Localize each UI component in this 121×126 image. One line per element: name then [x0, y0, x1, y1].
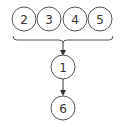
- node-label: 1: [59, 61, 67, 75]
- node-1: 1: [51, 55, 75, 79]
- grouping-brace: [13, 36, 113, 43]
- node-6: 6: [51, 96, 75, 120]
- node-3: 3: [37, 7, 61, 31]
- node-label: 5: [96, 13, 104, 27]
- node-label: 2: [20, 13, 28, 27]
- node-2: 2: [12, 7, 36, 31]
- node-label: 3: [45, 13, 53, 27]
- node-label: 4: [71, 13, 79, 27]
- node-5: 5: [88, 7, 112, 31]
- node-label: 6: [59, 102, 67, 116]
- node-4: 4: [63, 7, 87, 31]
- dependency-diagram: 2 3 4 5 1 6: [0, 0, 121, 126]
